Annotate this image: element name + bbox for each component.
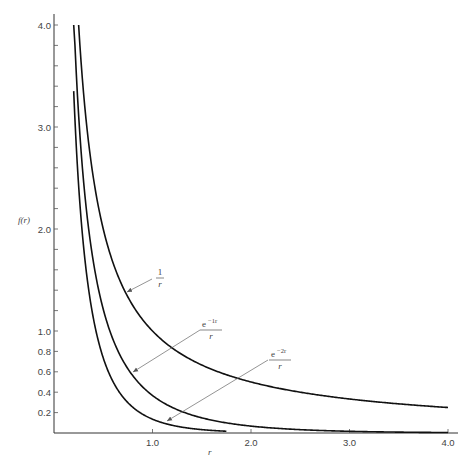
annotations: 1re−1rre−2rr (127, 267, 291, 421)
y-tick-label: 0.2 (38, 407, 51, 418)
curve-exp-neg-2r-over-r (74, 91, 227, 431)
label-denominator: r (209, 331, 213, 341)
leader-arrow (133, 330, 200, 372)
x-tick-label: 2.0 (244, 437, 257, 448)
curve-label: e−2rr (269, 347, 291, 371)
curves (74, 25, 448, 433)
y-tick-label: 2.0 (38, 224, 51, 235)
x-axis-label: r (208, 447, 212, 457)
x-tick-label: 3.0 (343, 437, 356, 448)
label-denominator: r (158, 279, 162, 289)
label-denominator: r (278, 361, 282, 371)
axes: 0.20.40.60.81.02.03.04.0 1.02.03.04.0 (38, 14, 458, 448)
y-tick-label: 3.0 (38, 122, 51, 133)
y-tick-label: 1.0 (38, 326, 51, 337)
curve-label: 1r (156, 267, 164, 289)
leader-arrow (127, 279, 152, 292)
y-tick-label: 4.0 (38, 20, 51, 31)
label-numerator: e (271, 349, 275, 359)
y-tick-label: 0.8 (38, 346, 51, 357)
label-numerator: 1 (158, 267, 163, 277)
y-tick-label: 0.4 (38, 387, 51, 398)
chart: 0.20.40.60.81.02.03.04.0 1.02.03.04.0 f(… (0, 0, 469, 465)
curve-inverse-r (79, 25, 448, 408)
curve-label: e−1rr (200, 317, 222, 341)
leader-arrow (167, 360, 268, 421)
label-exponent: −2r (277, 347, 287, 354)
label-numerator: e (202, 319, 206, 329)
y-ticks: 0.20.40.60.81.02.03.04.0 (38, 20, 58, 419)
y-tick-label: 0.6 (38, 366, 51, 377)
y-axis-label: f(r) (18, 215, 30, 225)
x-tick-label: 4.0 (441, 437, 454, 448)
curve-exp-neg-r-over-r (74, 25, 448, 433)
label-exponent: −1r (208, 317, 218, 324)
x-tick-label: 1.0 (146, 437, 159, 448)
